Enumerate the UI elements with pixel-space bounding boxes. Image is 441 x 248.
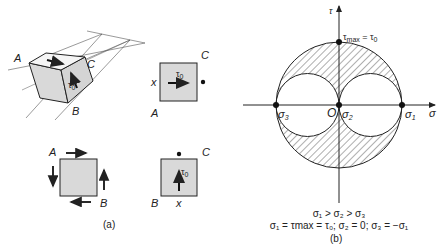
element-tr-label-x: x	[151, 77, 157, 88]
caption-b: (b)	[330, 233, 342, 244]
origin-label: O	[327, 108, 336, 119]
element-bl-label-b: B	[100, 198, 107, 209]
cube-stress-label: τ0	[68, 80, 75, 93]
element-tr-stress: τ0	[176, 69, 183, 82]
cube-label-a: A	[14, 53, 21, 64]
out-of-plane-dot	[177, 152, 181, 156]
mohr-circle	[243, 6, 435, 203]
cube-label-b: B	[72, 106, 79, 117]
point-tau-max	[336, 39, 342, 45]
element-bl-label-a: A	[49, 147, 56, 158]
element-bottom-left	[53, 153, 104, 202]
tau-axis-label: τ	[329, 6, 332, 17]
sigma1-label: σ1	[405, 109, 416, 123]
diagram-canvas: A C B τ0 x A C τ0 A B B x C τ0 (a) τ σ τ…	[0, 0, 441, 248]
sigma3-label: σ3	[278, 109, 289, 123]
element-br-stress: τ0	[181, 167, 188, 180]
condition-line: σ₁ > σ₂ > σ₃	[269, 208, 409, 219]
tau-max-label: τmax = τ0	[343, 32, 378, 45]
element-br-label-x: x	[176, 198, 182, 209]
relation-line: σ₁ = τmax = τ₀; σ₂ = 0; σ₃ = −σ₁	[248, 220, 430, 231]
cube-label-c: C	[87, 59, 95, 70]
element-tr-label-c: C	[201, 50, 209, 61]
element-bottom-right	[161, 152, 197, 196]
sigma-axis-label: σ	[429, 108, 436, 119]
element-br-label-c: C	[202, 147, 210, 158]
caption-a: (a)	[103, 219, 115, 230]
element-br-label-b: B	[151, 198, 158, 209]
sigma2-label: σ2	[342, 109, 353, 123]
out-of-plane-dot	[201, 80, 205, 84]
element-tr-label-a: A	[151, 108, 158, 119]
